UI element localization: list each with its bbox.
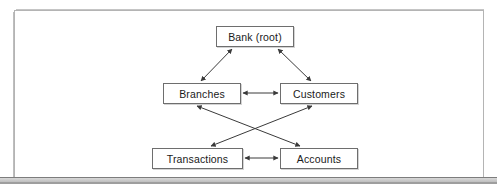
- node-customers: Customers: [280, 83, 358, 104]
- node-branches-label: Branches: [179, 88, 225, 100]
- diagram-screenshot: Bank (root) Branches Customers Transacti…: [0, 0, 497, 191]
- page-bottom-band: [0, 177, 497, 185]
- node-accounts: Accounts: [280, 148, 358, 169]
- node-bank-label: Bank (root): [228, 31, 282, 43]
- node-transactions: Transactions: [152, 148, 243, 169]
- node-transactions-label: Transactions: [167, 153, 229, 165]
- node-customers-label: Customers: [293, 88, 345, 100]
- node-branches: Branches: [163, 83, 241, 104]
- node-bank: Bank (root): [216, 26, 294, 47]
- node-accounts-label: Accounts: [297, 153, 341, 165]
